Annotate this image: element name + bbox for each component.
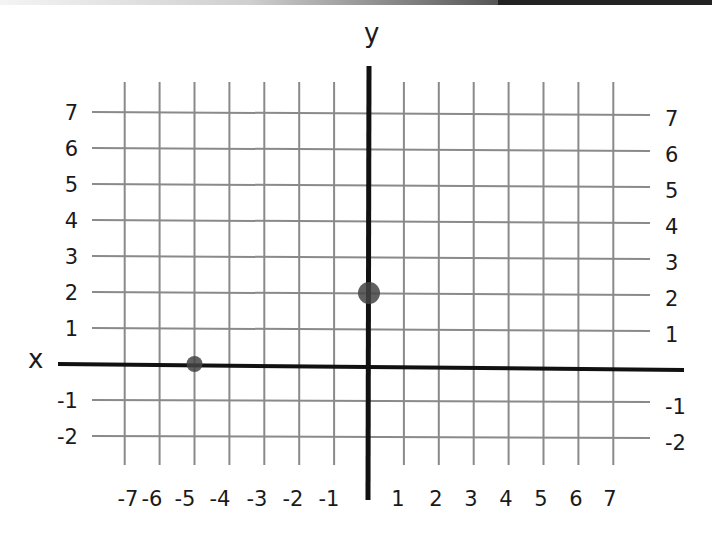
- x-tick-label: 6: [569, 487, 582, 511]
- y-tick-label-left: 7: [65, 101, 78, 125]
- y-tick-label-left: 1: [65, 317, 78, 341]
- grid-line-horizontal: [92, 328, 650, 331]
- coordinate-plane: xy-7-6-5-4-3-2-112345677654321-1-2765432…: [0, 0, 712, 546]
- y-axis-label: y: [364, 18, 379, 48]
- x-tick-label: -2: [283, 487, 304, 511]
- data-point: [187, 356, 203, 372]
- y-tick-label-left: 2: [65, 281, 78, 305]
- y-tick-label-left: 5: [65, 173, 78, 197]
- x-tick-label: -7: [118, 487, 139, 511]
- grid-line-horizontal: [92, 436, 650, 438]
- y-tick-label-right: -1: [665, 395, 686, 419]
- grid-line-horizontal: [92, 400, 650, 402]
- x-tick-label: -3: [247, 487, 268, 511]
- y-tick-label-right: 1: [665, 323, 678, 347]
- data-point: [358, 282, 380, 304]
- y-tick-label-right: -2: [665, 431, 686, 455]
- x-tick-label: 7: [603, 487, 616, 511]
- x-tick-label: -4: [210, 487, 231, 511]
- y-tick-label-right: 4: [665, 215, 678, 239]
- y-tick-label-left: -1: [57, 389, 78, 413]
- y-tick-label-right: 6: [665, 143, 678, 167]
- y-tick-label-right: 7: [665, 107, 678, 131]
- x-tick-label: 3: [464, 487, 477, 511]
- y-tick-label-left: 3: [65, 245, 78, 269]
- y-tick-label-left: -2: [57, 425, 78, 449]
- x-tick-label: 5: [534, 487, 547, 511]
- x-tick-label: -5: [175, 487, 196, 511]
- y-tick-label-right: 2: [665, 287, 678, 311]
- y-tick-label-right: 3: [665, 251, 678, 275]
- x-tick-label: 2: [429, 487, 442, 511]
- y-tick-label-right: 5: [665, 179, 678, 203]
- x-tick-label: 4: [499, 487, 512, 511]
- x-axis-label: x: [28, 344, 43, 374]
- y-tick-label-left: 6: [65, 137, 78, 161]
- x-tick-label: -1: [319, 487, 340, 511]
- x-tick-label: -6: [142, 487, 163, 511]
- x-tick-label: 1: [391, 487, 404, 511]
- x-axis-line: [58, 364, 684, 370]
- y-tick-label-left: 4: [65, 209, 78, 233]
